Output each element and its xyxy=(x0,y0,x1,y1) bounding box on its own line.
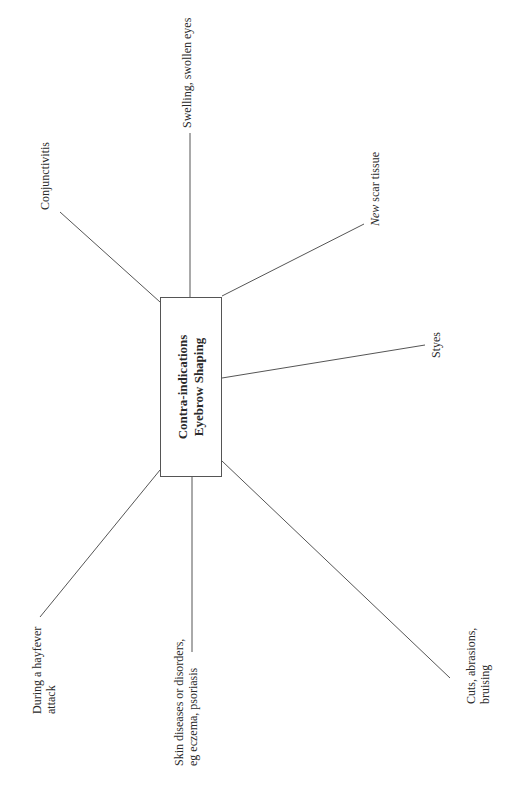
center-title: Contra-indications Eyebrow Shaping xyxy=(175,335,207,440)
label-styes: Styes xyxy=(429,332,443,358)
center-title-line1: Contra-indications xyxy=(175,335,191,440)
center-node: Contra-indications Eyebrow Shaping xyxy=(160,297,222,477)
line-conjunctivitis xyxy=(60,212,160,302)
label-new-scar: New scar tissue xyxy=(368,152,382,226)
label-cuts: Cuts, abrasions, bruising xyxy=(464,628,492,704)
center-title-line2: Eyebrow Shaping xyxy=(191,335,207,440)
connector-lines xyxy=(0,0,520,787)
line-styes xyxy=(222,345,425,378)
line-new-scar xyxy=(222,224,364,296)
label-hayfever: During a hayfever attack xyxy=(30,627,58,714)
label-conjunctivitis: Conjunctivitis xyxy=(38,142,52,210)
line-cuts xyxy=(222,461,450,678)
label-swelling: Swelling, swollen eyes xyxy=(180,18,194,128)
label-skin: Skin diseases or disorders, eg eczema, p… xyxy=(172,639,200,766)
line-hayfever xyxy=(40,470,160,617)
